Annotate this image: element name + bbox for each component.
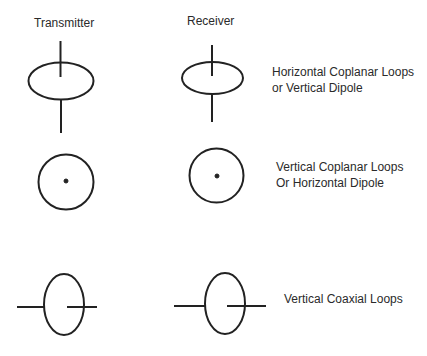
label-line: Or Horizontal Dipole [276,175,403,191]
label-horizontal-coplanar-loops: Horizontal Coplanar Loops or Vertical Di… [272,64,414,96]
label-line: or Vertical Dipole [272,80,414,96]
label-line: Horizontal Coplanar Loops [272,64,414,80]
receiver-vertical-coaxial-loop-icon [174,273,266,334]
label-line: Vertical Coplanar Loops [276,159,403,175]
transmitter-vertical-coaxial-loop-icon [17,274,97,335]
label-vertical-coplanar-loops: Vertical Coplanar Loops Or Horizontal Di… [276,159,403,191]
label-vertical-coaxial-loops: Vertical Coaxial Loops [284,291,403,307]
receiver-horizontal-loop-icon [182,45,243,122]
label-line: Vertical Coaxial Loops [284,291,403,307]
transmitter-vertical-coplanar-loop-icon [39,155,94,210]
receiver-vertical-coplanar-loop-icon [190,149,244,203]
transmitter-horizontal-loop-icon [29,41,94,133]
